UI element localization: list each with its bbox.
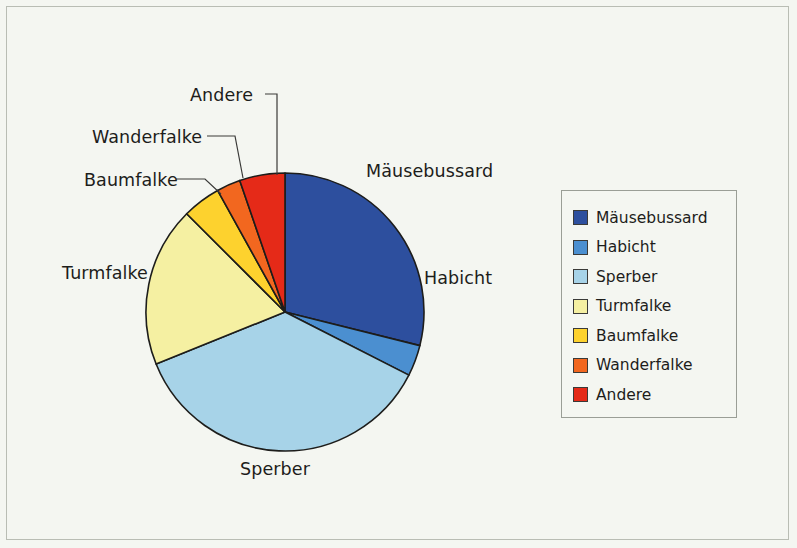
leader-line-andere [265, 94, 277, 175]
legend-item-label: Wanderfalke [596, 356, 693, 374]
legend-item[interactable]: Habicht [573, 233, 736, 263]
legend-item-label: Sperber [596, 268, 657, 286]
legend-swatch-icon [573, 299, 588, 314]
legend-swatch-icon [573, 240, 588, 255]
legend-swatch-icon [573, 210, 588, 225]
chart-page: Mäusebussard Habicht Sperber Turmfalke B… [0, 0, 797, 548]
legend-item[interactable]: Andere [573, 380, 736, 410]
legend-item[interactable]: Baumfalke [573, 321, 736, 351]
pie-chart: Mäusebussard Habicht Sperber Turmfalke B… [0, 0, 797, 548]
legend-item-label: Habicht [596, 238, 656, 256]
legend-item-label: Turmfalke [596, 297, 671, 315]
legend-item-label: Mäusebussard [596, 209, 708, 227]
legend-item[interactable]: Mäusebussard [573, 203, 736, 233]
legend-item[interactable]: Turmfalke [573, 292, 736, 322]
pie-label-mausebussard: Mäusebussard [366, 161, 493, 181]
legend-item[interactable]: Sperber [573, 262, 736, 292]
pie-label-habicht: Habicht [424, 268, 492, 288]
chart-legend: MäusebussardHabichtSperberTurmfalkeBaumf… [561, 190, 737, 418]
pie-label-andere: Andere [190, 85, 253, 105]
legend-item-label: Andere [596, 386, 651, 404]
pie-slice-group [146, 173, 424, 451]
pie-label-sperber: Sperber [240, 459, 310, 479]
pie-label-baumfalke: Baumfalke [84, 170, 178, 190]
legend-swatch-icon [573, 387, 588, 402]
legend-item[interactable]: Wanderfalke [573, 351, 736, 381]
leader-line-wanderfalke [207, 136, 243, 178]
pie-label-turmfalke: Turmfalke [62, 263, 148, 283]
legend-item-label: Baumfalke [596, 327, 678, 345]
pie-label-wanderfalke: Wanderfalke [92, 127, 202, 147]
legend-swatch-icon [573, 328, 588, 343]
legend-swatch-icon [573, 358, 588, 373]
legend-swatch-icon [573, 269, 588, 284]
